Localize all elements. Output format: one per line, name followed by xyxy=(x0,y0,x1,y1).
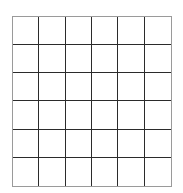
grid-cell xyxy=(66,45,92,73)
grid-cell xyxy=(13,158,39,186)
grid-cell xyxy=(13,45,39,73)
grid-cell xyxy=(39,101,65,129)
grid-cell xyxy=(145,101,171,129)
grid-cell xyxy=(145,73,171,101)
grid-cell xyxy=(66,158,92,186)
grid-cell xyxy=(145,130,171,158)
grid-cell xyxy=(145,158,171,186)
grid-cell xyxy=(118,17,144,45)
grid-cell xyxy=(118,158,144,186)
grid-cell xyxy=(39,130,65,158)
grid-cell xyxy=(118,73,144,101)
grid-cell xyxy=(92,17,118,45)
grid-cell xyxy=(39,73,65,101)
grid-cell xyxy=(39,17,65,45)
grid-cell xyxy=(118,45,144,73)
grid-cell xyxy=(92,73,118,101)
grid-cell xyxy=(92,130,118,158)
grid-cell xyxy=(66,73,92,101)
grid-cell xyxy=(92,158,118,186)
grid-cell xyxy=(13,17,39,45)
grid-cell xyxy=(39,158,65,186)
grid-cell xyxy=(145,45,171,73)
grid-cell xyxy=(66,101,92,129)
grid-cell xyxy=(13,73,39,101)
grid-cell xyxy=(66,17,92,45)
grid-cell xyxy=(66,130,92,158)
grid-cell xyxy=(92,45,118,73)
grid-cell xyxy=(13,101,39,129)
grid-cell xyxy=(118,101,144,129)
grid-cell xyxy=(145,17,171,45)
empty-6x6-grid xyxy=(12,16,172,187)
page-canvas xyxy=(0,0,183,193)
grid-cell xyxy=(39,45,65,73)
grid-cell xyxy=(13,130,39,158)
grid-cell xyxy=(92,101,118,129)
grid-cell xyxy=(118,130,144,158)
